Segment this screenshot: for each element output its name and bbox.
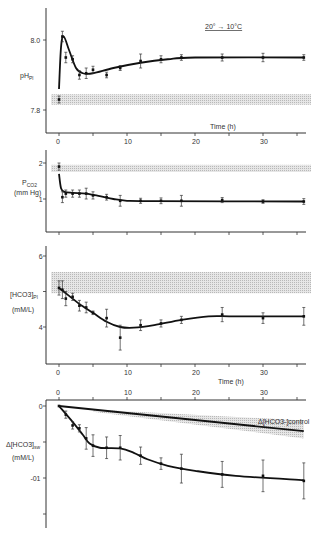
data-point <box>78 427 81 430</box>
data-point <box>71 192 74 195</box>
data-point <box>119 446 122 449</box>
y-axis-label-sub: Pl <box>33 294 37 300</box>
y-axis-label-sub: sw <box>34 444 41 450</box>
data-point <box>92 444 95 447</box>
x-tick-label: 20 <box>192 369 200 376</box>
data-point <box>262 56 265 59</box>
panel-2: 21PCO2(mm Hg) <box>14 150 311 235</box>
x-axis-label: Time (h) <box>218 378 244 386</box>
data-point <box>160 58 163 61</box>
y-tick-label: 4 <box>39 324 43 331</box>
data-point <box>303 480 306 483</box>
y-tick-label: 1 <box>39 196 43 203</box>
data-point <box>139 454 142 457</box>
y-tick-label: 8.0 <box>30 37 40 44</box>
data-point <box>61 288 64 291</box>
y-tick-label: -01 <box>30 475 40 482</box>
data-point <box>303 56 306 59</box>
data-point <box>92 312 95 315</box>
y-axis-label: Δ[HCO3]sw <box>6 441 41 450</box>
y-tick-label: 6 <box>39 253 43 260</box>
data-point <box>160 322 163 325</box>
data-point <box>180 319 183 322</box>
data-point <box>65 192 68 195</box>
data-point <box>78 74 81 77</box>
data-point <box>160 462 163 465</box>
data-point <box>85 437 88 440</box>
data-point <box>221 56 224 59</box>
data-point <box>221 313 224 316</box>
data-point <box>139 60 142 63</box>
data-point <box>262 317 265 320</box>
x-tick-label: 20 <box>192 138 200 145</box>
y-axis-label: [HCO3]Pl <box>10 291 38 300</box>
data-point <box>61 35 64 38</box>
y-tick-label: 0 <box>39 403 43 410</box>
y-axis-label-sub: CO2 <box>27 182 38 188</box>
figure: 0102030Time (h)8.07.8pHPl21PCO2(mm Hg)01… <box>0 0 322 537</box>
data-point <box>65 56 68 59</box>
data-point <box>180 56 183 59</box>
y-axis-units: (mm Hg) <box>14 189 41 197</box>
x-tick-label: 0 <box>56 369 60 376</box>
data-point <box>61 196 64 199</box>
x-tick-label: 20 <box>192 389 200 396</box>
chart-layer: 0102030Time (h)8.07.8pHPl21PCO2(mm Hg)01… <box>6 8 311 528</box>
y-axis-label: PCO2 <box>22 179 37 188</box>
data-point <box>180 200 183 203</box>
data-point <box>262 200 265 203</box>
data-point <box>85 72 88 75</box>
panel-3: 0102030Time (h)64[HCO3]Pl(mM/L) <box>10 246 311 386</box>
data-point <box>85 192 88 195</box>
y-axis-units: (mM/L) <box>12 454 34 462</box>
x-tick-label: 10 <box>124 138 132 145</box>
x-tick-label: 10 <box>124 369 132 376</box>
data-point <box>58 165 61 168</box>
panel-4: 01020300-01Δ[HCO3]sw(mM/L)Δ[HCO3-]contro… <box>6 389 310 528</box>
data-point <box>105 446 108 449</box>
data-point <box>92 68 95 71</box>
data-point <box>71 58 74 61</box>
data-point <box>65 297 68 300</box>
y-axis-label: pHPl <box>20 72 33 81</box>
x-tick-label: 30 <box>260 369 268 376</box>
data-point <box>105 317 108 320</box>
x-tick-label: 0 <box>56 389 60 396</box>
y-axis-units: (mM/L) <box>12 306 34 314</box>
data-point <box>160 200 163 203</box>
data-point <box>119 200 122 203</box>
data-point <box>58 405 61 408</box>
x-tick-label: 30 <box>260 389 268 396</box>
x-tick-label: 10 <box>124 389 132 396</box>
control-annotation: Δ[HCO3-]control <box>258 418 310 426</box>
data-point <box>58 287 61 290</box>
y-axis-label-sub: Pl <box>29 75 33 81</box>
control-band <box>51 94 311 105</box>
fit-curve <box>59 36 304 89</box>
x-tick-label: 30 <box>260 138 268 145</box>
data-point <box>139 324 142 327</box>
data-point <box>221 473 224 476</box>
data-point <box>303 200 306 203</box>
data-point <box>303 315 306 318</box>
data-point <box>139 200 142 203</box>
panel-1: 0102030Time (h)8.07.8pHPl <box>20 8 311 145</box>
x-tick-label: 0 <box>56 138 60 145</box>
data-point <box>105 74 108 77</box>
control-band <box>51 272 311 293</box>
data-point <box>119 67 122 70</box>
data-point <box>180 467 183 470</box>
temperature-annotation: 20° → 10°C <box>205 23 242 30</box>
x-axis-label: Time (h) <box>210 123 236 131</box>
data-point <box>71 296 74 299</box>
data-point <box>58 98 61 101</box>
data-point <box>78 192 81 195</box>
y-tick-label: 2 <box>39 160 43 167</box>
data-point <box>85 306 88 309</box>
data-point <box>78 304 81 307</box>
y-tick-label: 7.8 <box>30 107 40 114</box>
data-point <box>105 196 108 199</box>
control-band <box>51 165 311 172</box>
data-point <box>71 424 74 427</box>
data-point <box>221 199 224 202</box>
